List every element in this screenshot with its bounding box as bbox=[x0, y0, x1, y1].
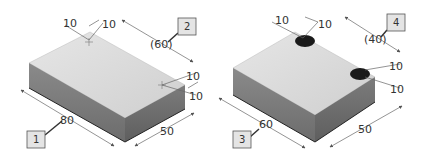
dim-right-right-a: 10 bbox=[389, 60, 403, 73]
callout-3: 3 bbox=[233, 131, 251, 148]
callout-1: 1 bbox=[27, 131, 45, 148]
callout-2: 2 bbox=[178, 18, 196, 35]
dim-left-length: 80 bbox=[60, 114, 74, 127]
isometric-diagram: 10 10 (60) 10 10 80 50 1 2 bbox=[0, 0, 421, 164]
svg-text:1: 1 bbox=[33, 134, 39, 145]
callout-4: 4 bbox=[387, 14, 405, 31]
dim-left-top-a: 10 bbox=[63, 17, 77, 30]
svg-text:3: 3 bbox=[239, 134, 245, 145]
left-block: 10 10 (60) 10 10 80 50 1 2 bbox=[21, 17, 203, 148]
dim-left-top-b: 10 bbox=[102, 18, 116, 31]
dim-right-top-b: 10 bbox=[318, 18, 332, 31]
svg-text:2: 2 bbox=[184, 21, 190, 32]
dim-right-length: 60 bbox=[259, 118, 273, 131]
dim-right-top-a: 10 bbox=[275, 14, 289, 27]
hole-top bbox=[295, 35, 315, 47]
dim-left-width: 50 bbox=[160, 125, 174, 138]
dim-right-right-b: 10 bbox=[390, 83, 404, 96]
dim-left-right-a: 10 bbox=[186, 70, 200, 83]
svg-text:4: 4 bbox=[393, 17, 399, 28]
dim-right-width: 50 bbox=[358, 123, 372, 136]
dim-left-right-b: 10 bbox=[189, 90, 203, 103]
right-block: 10 10 (40) 10 10 60 50 3 4 bbox=[219, 14, 405, 148]
